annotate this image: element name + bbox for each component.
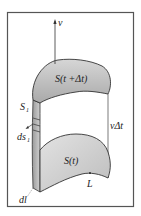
surface-bottom-label: S(t) — [64, 155, 79, 167]
side-surface-label: S — [20, 101, 25, 112]
displacement-label: vΔt — [110, 120, 123, 131]
line-element-label: dl — [19, 194, 27, 205]
flux-tube-diagram: v⃗ S(t +Δt) S(t) S 1 ds 1 vΔt L dl — [0, 0, 141, 216]
boundary-marker — [89, 172, 91, 174]
area-element-label: ds — [17, 131, 26, 142]
velocity-label: v⃗ — [58, 17, 70, 28]
boundary-label: L — [86, 178, 93, 189]
area-element-sub: 1 — [27, 137, 30, 143]
normal-arrowhead-icon — [26, 126, 30, 129]
side-surface — [32, 100, 40, 192]
side-surface-sub: 1 — [26, 107, 29, 113]
dl-leader — [27, 188, 33, 197]
surface-top-label: S(t +Δt) — [55, 73, 88, 85]
arrowhead-icon — [53, 19, 56, 24]
